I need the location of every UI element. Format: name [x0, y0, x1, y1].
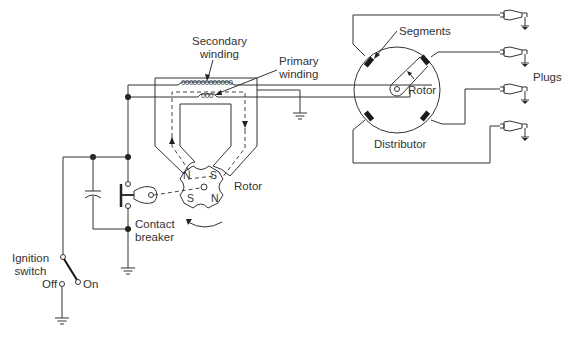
- switch-lever[interactable]: [64, 259, 77, 280]
- pole-label-s: S: [210, 169, 217, 182]
- flux-path: [172, 92, 245, 178]
- rotor-pointer: [410, 74, 414, 79]
- ground-icon: [55, 318, 69, 324]
- magneto-rotor-label: Rotor: [234, 180, 262, 193]
- plug-wire-3: [431, 89, 500, 124]
- switch-on-label: On: [83, 278, 98, 291]
- spark-plug-icon: [500, 121, 529, 141]
- secondary-winding-wire: [128, 82, 432, 85]
- ignition-switch-label: Ignition switch: [12, 252, 49, 278]
- flux-arrow-down: [242, 121, 248, 128]
- plug-wire-2: [431, 52, 500, 57]
- switch-off-terminal: [60, 282, 65, 287]
- flux-arrow-up: [169, 137, 175, 144]
- junction-dot: [125, 226, 131, 232]
- ground-icon: [121, 268, 135, 274]
- segment: [420, 55, 430, 66]
- distributor-rotor-label: Rotor: [408, 84, 436, 97]
- pole-label-n: N: [211, 192, 219, 205]
- segments-pointer: [377, 31, 397, 55]
- switch-on-terminal: [76, 280, 81, 285]
- contact-terminal: [126, 182, 131, 187]
- contact-breaker-label: Contact breaker: [135, 218, 175, 244]
- segment: [364, 57, 374, 68]
- secondary-coil-turns: 0000000000000: [181, 76, 232, 89]
- cam-pivot: [149, 193, 154, 198]
- spark-plug-icon: [500, 84, 529, 104]
- pole-label-s: S: [187, 192, 194, 205]
- distributor-shaft: [395, 87, 400, 92]
- rotor-shaft: [201, 184, 207, 190]
- contact-terminal: [126, 204, 131, 209]
- primary-winding-label: Primary winding: [279, 55, 319, 81]
- switch-off-label: Off: [42, 278, 57, 291]
- spark-plug-icon: [500, 47, 529, 67]
- primary-winding-wire: [128, 90, 410, 97]
- segments-label: Segments: [399, 25, 451, 38]
- rotation-arrow: [188, 222, 222, 227]
- pole-label-n: N: [183, 169, 191, 182]
- plugs-label: Plugs: [533, 71, 562, 84]
- magnetic-core-inner: [180, 104, 231, 166]
- secondary-winding-label: Secondary winding: [192, 35, 247, 61]
- ground-icon: [293, 113, 307, 119]
- capacitor-wire: [93, 157, 128, 229]
- distributor-label: Distributor: [374, 138, 426, 151]
- primary-coil-turns: 000: [201, 89, 213, 102]
- junction-dot: [125, 94, 131, 100]
- primary-pointer-head: [215, 90, 222, 95]
- spark-plug-icon: [500, 10, 529, 30]
